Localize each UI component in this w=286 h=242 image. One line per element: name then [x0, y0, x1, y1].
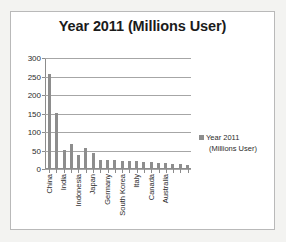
x-axis-label: China [46, 174, 54, 194]
bar-slot [126, 58, 133, 168]
x-tick-mark [93, 169, 94, 173]
x-tick-mark [180, 169, 181, 173]
x-tick-slot [97, 169, 104, 173]
bar [186, 165, 189, 168]
x-tick-slot [155, 169, 162, 173]
bar [99, 160, 102, 169]
x-tick-slot [134, 169, 141, 173]
x-tick-mark [86, 169, 87, 173]
scanned-page-background: Year 2011 (Millions User) 05010015020025… [0, 0, 286, 242]
y-tick-label: 250 [28, 72, 41, 81]
bar-slot [177, 58, 184, 168]
bar [48, 74, 51, 168]
chart-title: Year 2011 (Millions User) [11, 18, 274, 34]
bar-slot [133, 58, 140, 168]
x-tick-slot [112, 169, 119, 173]
x-tick-slot [163, 169, 170, 173]
bar-slot [97, 58, 104, 168]
x-tick-mark [122, 169, 123, 173]
x-tick-slot [141, 169, 148, 173]
y-tick-label: 200 [28, 91, 41, 100]
x-axis-label: Australia [163, 174, 171, 203]
x-label-slot: Indonesia [75, 174, 82, 230]
bar [164, 163, 167, 168]
bar-slot [46, 58, 53, 168]
x-tick-slot [90, 169, 97, 173]
bar-slot [162, 58, 169, 168]
x-tick-slot [126, 169, 133, 173]
bar-slot [140, 58, 147, 168]
x-tick-slot [68, 169, 75, 173]
bar-series [46, 58, 191, 168]
x-axis-label: Germany [104, 174, 112, 205]
bar [157, 163, 160, 168]
legend-label-line1: Year 2011 [206, 133, 239, 144]
bar-slot [119, 58, 126, 168]
bar-slot [53, 58, 60, 168]
bar [77, 155, 80, 168]
bar [92, 153, 95, 168]
x-tick-slot [46, 169, 53, 173]
y-tick-mark [42, 95, 45, 96]
y-tick-label: 100 [28, 128, 41, 137]
chart-legend: Year 2011 (Millions User) [199, 133, 273, 155]
x-tick-slot [185, 169, 192, 173]
y-tick-mark [42, 151, 45, 152]
x-label-slot: Italy [134, 174, 141, 230]
x-label-slot: India [61, 174, 68, 230]
x-label-slot: South Korea [119, 174, 126, 230]
x-tick-mark [64, 169, 65, 173]
x-axis-label: Italy [133, 174, 141, 188]
x-tick-mark [144, 169, 145, 173]
x-tick-mark [188, 169, 189, 173]
x-tick-mark [49, 169, 50, 173]
bar-slot [68, 58, 75, 168]
x-tick-slot [75, 169, 82, 173]
x-tick-slot [177, 169, 184, 173]
x-axis-label: South Korea [119, 174, 127, 216]
bar-slot [148, 58, 155, 168]
bar-slot [184, 58, 191, 168]
x-axis-label: Indonesia [75, 174, 83, 207]
x-tick-mark [137, 169, 138, 173]
x-tick-mark [151, 169, 152, 173]
y-tick-label: 300 [28, 54, 41, 63]
y-tick-label: 50 [32, 146, 41, 155]
x-label-slot: Germany [104, 174, 111, 230]
x-tick-mark [159, 169, 160, 173]
bar [179, 164, 182, 168]
bar-slot [82, 58, 89, 168]
x-tick-slot [170, 169, 177, 173]
x-tick-mark [115, 169, 116, 173]
x-tick-slot [53, 169, 60, 173]
bar [150, 162, 153, 168]
bar [135, 161, 138, 168]
bar-slot [155, 58, 162, 168]
bar [128, 161, 131, 168]
legend-entry: Year 2011 [199, 133, 273, 144]
x-tick-mark [166, 169, 167, 173]
x-tick-mark [108, 169, 109, 173]
bar [70, 144, 73, 168]
x-label-slot: Japan [90, 174, 97, 230]
bar-slot [61, 58, 68, 168]
chart-card: Year 2011 (Millions User) 05010015020025… [10, 11, 275, 230]
y-tick-mark [42, 58, 45, 59]
bar [171, 164, 174, 168]
bar [84, 148, 87, 168]
x-label-slot [170, 174, 177, 230]
x-tick-mark [71, 169, 72, 173]
plot-area: 050100150200250300 [45, 58, 191, 169]
x-label-slot: Canada [148, 174, 155, 230]
x-axis-label: Japan [90, 174, 98, 194]
legend-swatch-icon [199, 135, 204, 140]
y-tick-mark [42, 132, 45, 133]
x-tick-mark [173, 169, 174, 173]
bar-slot [104, 58, 111, 168]
y-tick-mark [42, 169, 45, 170]
bar-slot [75, 58, 82, 168]
x-axis-labels: ChinaIndiaIndonesiaJapanGermanySouth Kor… [46, 174, 192, 230]
bar-slot [90, 58, 97, 168]
x-label-slot: Australia [163, 174, 170, 230]
bar [121, 161, 124, 168]
